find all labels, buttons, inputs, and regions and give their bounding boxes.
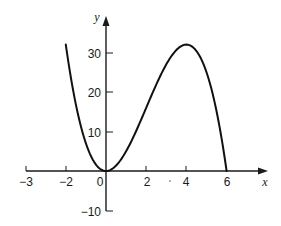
- y-axis-arrow-icon: [103, 16, 110, 26]
- function-curve: [66, 45, 227, 171]
- y-tick-label: 30: [88, 47, 102, 61]
- x-axis: −3 −2 0 2 4 6 x: [19, 166, 268, 189]
- x-tick-label: 6: [224, 175, 231, 189]
- x-tick-label: −2: [59, 175, 73, 189]
- y-axis-label: y: [93, 10, 100, 24]
- x-tick-label: 2: [144, 175, 151, 189]
- chart: −3 −2 0 2 4 6 x 30 20 10 −10 y: [0, 0, 281, 226]
- x-tick-label: −3: [19, 175, 33, 189]
- y-tick-label: −10: [81, 205, 102, 219]
- y-tick-label: 10: [88, 126, 102, 140]
- x-axis-arrow-icon: [258, 168, 268, 175]
- stray-dot: [169, 180, 171, 182]
- y-tick-label: 20: [88, 86, 102, 100]
- x-axis-label: x: [261, 175, 268, 189]
- x-tick-label: 4: [183, 175, 190, 189]
- x-tick-label: 0: [97, 175, 104, 189]
